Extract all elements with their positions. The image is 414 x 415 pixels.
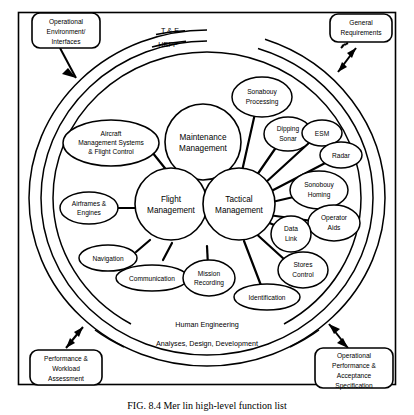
- satellite-node-navigation[interactable]: Navigation: [79, 245, 137, 271]
- svg-text:Assessment: Assessment: [48, 375, 84, 382]
- satellite-node-mission-recording[interactable]: Mission Recording: [183, 260, 235, 296]
- svg-text:Aircraft: Aircraft: [101, 130, 122, 137]
- arrow-performance-workload-assessment: [66, 327, 83, 348]
- figure-container: T & E HEPP Human Engineering Analyses, D…: [0, 0, 414, 415]
- svg-text:Interfaces: Interfaces: [52, 38, 82, 45]
- satellite-node-radar[interactable]: Radar: [320, 142, 362, 168]
- satellite-node-identification[interactable]: Identification: [234, 284, 300, 310]
- svg-text:Sonobouy: Sonobouy: [304, 181, 334, 189]
- arrow-general-requirements: [338, 43, 356, 72]
- satellite-node-stores-control[interactable]: Stores Control: [278, 252, 328, 288]
- svg-text:Communication: Communication: [129, 275, 175, 282]
- arrow-operational-performance-acceptance-specification: [329, 324, 348, 348]
- svg-text:Radar: Radar: [332, 152, 351, 159]
- svg-text:& Flight Control: & Flight Control: [88, 148, 134, 156]
- svg-text:Sonabouy: Sonabouy: [247, 88, 277, 96]
- connector-communication: [163, 243, 172, 260]
- arrow-operational-environment-interfaces: [60, 48, 76, 78]
- ring-label-analyses-design-development: Analyses, Design, Development: [156, 339, 258, 348]
- figure-caption: FIG. 8.4 Mer lin high-level function lis…: [127, 400, 287, 411]
- svg-text:Acceptance: Acceptance: [337, 372, 372, 380]
- svg-text:Link: Link: [285, 235, 298, 242]
- satellite-node-data-link[interactable]: Data Link: [271, 216, 311, 252]
- svg-text:Mission: Mission: [198, 270, 221, 277]
- callout-box-performance-workload-assessment[interactable]: Performance & Workload Assessment: [30, 350, 102, 385]
- svg-text:Data: Data: [284, 225, 298, 232]
- svg-text:Airframes &: Airframes &: [72, 200, 107, 207]
- connector-navigation: [136, 240, 150, 252]
- svg-text:Processing: Processing: [246, 98, 279, 106]
- svg-text:Performance &: Performance &: [44, 355, 89, 362]
- svg-text:Recording: Recording: [194, 279, 224, 287]
- callout-box-general-requirements[interactable]: General Requirements: [330, 14, 392, 42]
- svg-text:General: General: [349, 19, 373, 26]
- svg-text:ESM: ESM: [315, 130, 329, 137]
- svg-text:Stores: Stores: [293, 261, 313, 268]
- svg-text:Operator: Operator: [321, 214, 348, 222]
- connector-identification: [244, 241, 262, 288]
- svg-text:Navigation: Navigation: [92, 255, 123, 263]
- svg-text:Environment/: Environment/: [47, 28, 86, 35]
- svg-text:Dipping: Dipping: [277, 125, 300, 133]
- ring-label-human-engineering: Human Engineering: [175, 320, 239, 329]
- satellite-node-airframes-engines[interactable]: Airframes & Engines: [60, 192, 118, 224]
- svg-text:Operational: Operational: [49, 18, 84, 26]
- svg-text:Control: Control: [292, 271, 314, 278]
- core-node-flight-management[interactable]: Flight Management: [135, 168, 207, 240]
- ring-label-te: T & E: [161, 26, 179, 35]
- svg-text:Operational: Operational: [337, 352, 372, 360]
- satellite-node-communication[interactable]: Communication: [116, 265, 188, 291]
- satellite-node-aircraft-management-systems-flight-control[interactable]: Aircraft Management Systems & Flight Con…: [63, 120, 159, 166]
- svg-text:Performance &: Performance &: [332, 362, 377, 369]
- svg-text:Management Systems: Management Systems: [78, 139, 144, 147]
- svg-text:Sonar: Sonar: [279, 135, 297, 142]
- svg-text:Requirements: Requirements: [340, 29, 382, 37]
- core-node-tactical-management[interactable]: Tactical Management: [203, 168, 275, 240]
- svg-text:Aids: Aids: [328, 224, 342, 231]
- svg-text:Flight: Flight: [161, 195, 182, 204]
- callout-box-operational-performance-acceptance-specification[interactable]: Operational Performance & Acceptance Spe…: [315, 348, 393, 390]
- svg-text:Maintenance: Maintenance: [180, 133, 227, 142]
- svg-text:Management: Management: [215, 206, 264, 215]
- svg-text:Homing: Homing: [308, 191, 331, 199]
- svg-text:Workload: Workload: [52, 365, 80, 372]
- svg-text:Management: Management: [147, 206, 196, 215]
- svg-text:Management: Management: [179, 144, 228, 153]
- svg-text:Tactical: Tactical: [225, 195, 252, 204]
- svg-text:Specification: Specification: [335, 382, 373, 390]
- svg-text:Engines: Engines: [77, 209, 102, 217]
- satellite-node-operator-aids[interactable]: Operator Aids: [308, 205, 360, 241]
- callout-box-operational-environment-interfaces[interactable]: Operational Environment/ Interfaces: [32, 13, 100, 48]
- svg-text:Identification: Identification: [248, 294, 285, 301]
- satellite-node-sonabouy-processing[interactable]: Sonabouy Processing: [232, 77, 292, 117]
- satellite-node-sonobouy-homing[interactable]: Sonobouy Homing: [290, 171, 348, 209]
- ring-label-hepp: HEPP: [158, 40, 178, 49]
